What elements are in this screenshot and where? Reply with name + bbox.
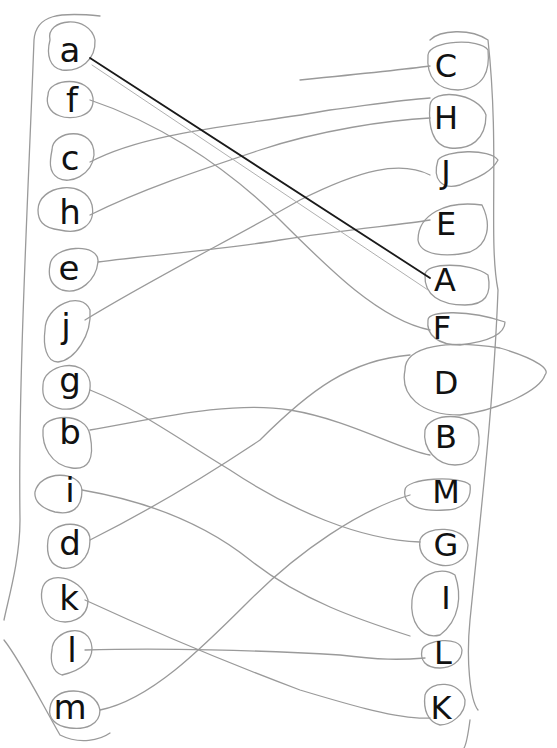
letter-f: f bbox=[66, 83, 78, 117]
letter-a: a bbox=[60, 33, 81, 67]
match-line-j-C-upper bbox=[300, 66, 430, 80]
letter-m: m bbox=[53, 690, 86, 724]
letter-A: A bbox=[434, 264, 456, 296]
letter-F: F bbox=[433, 312, 451, 344]
letter-M: M bbox=[432, 476, 460, 508]
letter-d: d bbox=[59, 526, 81, 560]
circle-i bbox=[35, 475, 82, 513]
letter-J: J bbox=[441, 156, 450, 188]
letter-e: e bbox=[59, 251, 80, 285]
letter-G: G bbox=[434, 529, 459, 561]
letter-H: H bbox=[434, 102, 458, 134]
letter-c: c bbox=[61, 141, 80, 175]
letter-l: l bbox=[67, 633, 76, 667]
match-line-e-E bbox=[98, 220, 430, 262]
letter-b: b bbox=[59, 415, 81, 449]
letter-i: i bbox=[65, 473, 74, 507]
letter-k: k bbox=[59, 581, 79, 615]
drawing-layer bbox=[0, 0, 557, 748]
letter-h: h bbox=[59, 195, 81, 229]
matching-worksheet: a f c h e j g b i d k l m C H J E A F D … bbox=[0, 0, 557, 748]
letter-C: C bbox=[435, 50, 457, 82]
match-line-l-L bbox=[85, 649, 425, 659]
match-line-f-F bbox=[90, 100, 430, 330]
match-line-i-I bbox=[82, 490, 410, 636]
match-line-m-M bbox=[100, 495, 410, 710]
match-line-g-G bbox=[90, 390, 420, 542]
letter-I: I bbox=[441, 582, 450, 614]
letter-B: B bbox=[435, 421, 457, 453]
circle-I bbox=[412, 571, 459, 636]
match-line-a-A bbox=[90, 58, 430, 278]
match-line-d-D bbox=[90, 355, 410, 540]
letter-K: K bbox=[431, 692, 452, 724]
match-line-c-H bbox=[90, 98, 430, 162]
letter-j: j bbox=[61, 309, 70, 343]
right-border-tail bbox=[464, 720, 470, 748]
letter-L: L bbox=[434, 637, 452, 669]
letter-D: D bbox=[434, 367, 459, 399]
letter-E: E bbox=[436, 208, 456, 240]
circle-D bbox=[404, 344, 546, 415]
letter-g: g bbox=[59, 363, 81, 397]
